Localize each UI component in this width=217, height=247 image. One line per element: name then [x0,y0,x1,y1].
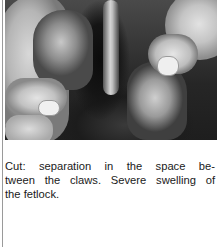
hoof-photograph [5,0,217,140]
caption-line-1: Cut: separation in the space be- [5,159,215,173]
left-thumbnail [38,100,60,116]
caption-line-2: tween the claws. Severe swelling of [5,173,215,187]
interdigital-space [103,0,119,95]
right-thumbnail [157,56,179,76]
caption-line-3: the fetlock. [5,187,215,201]
left-knuckle [5,115,53,140]
page-margin-rule [2,0,3,247]
figure-caption: Cut: separation in the space be- tween t… [5,159,215,201]
